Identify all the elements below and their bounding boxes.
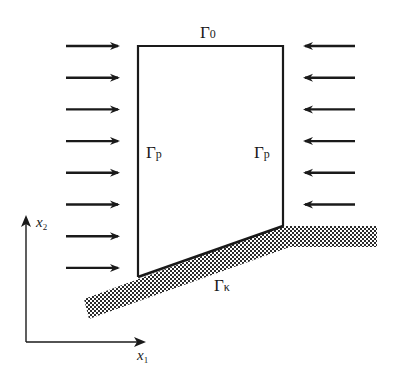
left-boundary-label: Γp [146,143,162,162]
x1-axis-label: x1 [136,347,148,365]
contact-boundary-label: Γκ [214,276,230,295]
diagram-svg: Γ0 Γp Γp Γκ x2 x1 [0,0,397,381]
coordinate-axes [21,215,146,347]
left-load-arrows [66,46,118,268]
foundation [84,226,377,319]
diagram-canvas: Γ0 Γp Γp Γκ x2 x1 [0,0,397,381]
top-boundary-label: Γ0 [200,23,216,42]
right-load-arrows [305,46,355,205]
x2-axis-label: x2 [35,214,47,232]
right-boundary-label: Γp [254,143,270,162]
